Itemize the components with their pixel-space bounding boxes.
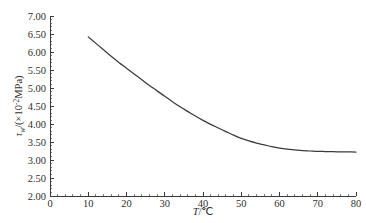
y-tick-label: 5.50	[28, 65, 46, 76]
y-tick-label: 6.50	[28, 29, 46, 40]
x-tick-label: 70	[313, 198, 324, 209]
x-axis-title: T/℃	[193, 206, 214, 217]
chart-figure: 2.002.503.003.504.004.505.005.506.006.50…	[0, 0, 366, 223]
x-tick-label: 50	[236, 198, 247, 209]
x-tick-label: 0	[47, 198, 52, 209]
svg-text:τw/(×10-2MPa): τw/(×10-2MPa)	[12, 75, 27, 137]
y-tick-label: 6.00	[28, 47, 46, 58]
x-tick-label: 60	[274, 198, 285, 209]
y-tick-label: 2.00	[28, 191, 46, 202]
y-tick-label: 7.00	[28, 11, 46, 22]
y-tick-label: 4.50	[28, 101, 46, 112]
x-tick-label: 10	[83, 198, 94, 209]
svg-text:T/℃: T/℃	[193, 206, 214, 217]
y-tick-label: 5.00	[28, 83, 46, 94]
y-tick-label: 3.00	[28, 155, 46, 166]
y-tick-label: 2.50	[28, 173, 46, 184]
y-axis-title: τw/(×10-2MPa)	[12, 75, 27, 137]
y-tick-label: 3.50	[28, 137, 46, 148]
y-tick-label: 4.00	[28, 119, 46, 130]
y-axis-tick-labels: 2.002.503.003.504.004.505.005.506.006.50…	[28, 11, 46, 202]
x-tick-label: 20	[121, 198, 132, 209]
line-chart: 2.002.503.003.504.004.505.005.506.006.50…	[0, 0, 366, 223]
x-tick-label: 30	[160, 198, 171, 209]
x-tick-label: 80	[351, 198, 362, 209]
